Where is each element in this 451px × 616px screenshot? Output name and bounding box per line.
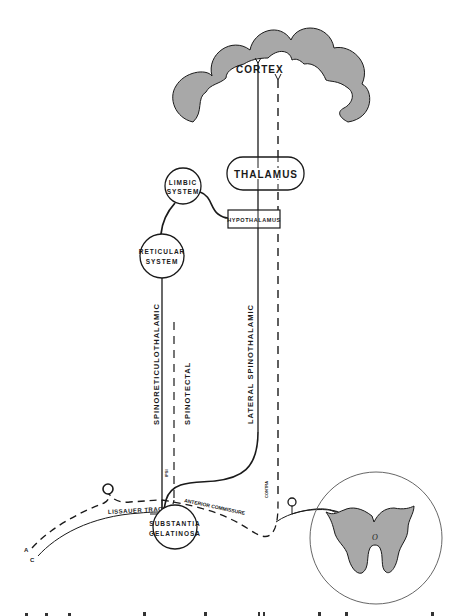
contra-label: CONTRA: [264, 481, 269, 498]
spinal-cord-inset: O: [310, 472, 442, 604]
central-canal-label: O: [372, 533, 378, 542]
substantia-label-line2: GELATINOSA: [149, 530, 201, 537]
substantia-label-line1: SUBSTANTIA: [149, 520, 200, 527]
reticular-circle: [140, 234, 184, 278]
cortex-shape: [173, 28, 370, 122]
cortex: CORTEX: [173, 28, 370, 122]
reticular-label-line1: RETICULAR: [139, 248, 186, 255]
limbic-label-line1: LIMBIC: [169, 179, 197, 186]
thalamus-label: THALAMUS: [234, 169, 298, 180]
hypothalamus-label: HYPOTHALAMUS: [227, 217, 281, 223]
spinoreticulothalamic-label: SPINORETICULOTHALAMIC: [152, 303, 161, 425]
ipsi-label: IPSI: [164, 469, 169, 477]
reticular-system: RETICULAR SYSTEM: [139, 234, 186, 278]
spinotectal-label: SPINOTECTAL: [183, 362, 192, 425]
limbic-circle: [165, 168, 201, 204]
cortex-label: CORTEX: [236, 64, 284, 75]
caption-cutoff: [25, 612, 434, 616]
dorsal-root-ganglion-left: [103, 484, 113, 494]
limbic-label-line2: SYSTEM: [167, 188, 200, 195]
fiber-c-label: C: [30, 557, 35, 563]
limbic-system: LIMBIC SYSTEM: [165, 168, 201, 204]
limbic-reticular-connector: [161, 203, 175, 234]
thalamus: THALAMUS: [227, 157, 304, 190]
reticular-label-line2: SYSTEM: [146, 258, 179, 265]
fiber-a-label: A: [24, 547, 29, 553]
limbic-hypothalamus-connector: [200, 192, 228, 218]
fiber-c-solid: [38, 512, 162, 556]
lateral-spinothalamic-label: LATERAL SPINOTHALAMIC: [246, 304, 255, 424]
pain-pathway-diagram: CORTEX THALAMUS HYPOTHALAMUS LIMBIC SYST…: [0, 0, 451, 616]
dorsal-root-ganglion-right: [288, 498, 296, 506]
substantia-circle: [153, 505, 197, 549]
hypothalamus: HYPOTHALAMUS: [227, 210, 281, 228]
gray-matter-butterfly: [326, 506, 414, 573]
